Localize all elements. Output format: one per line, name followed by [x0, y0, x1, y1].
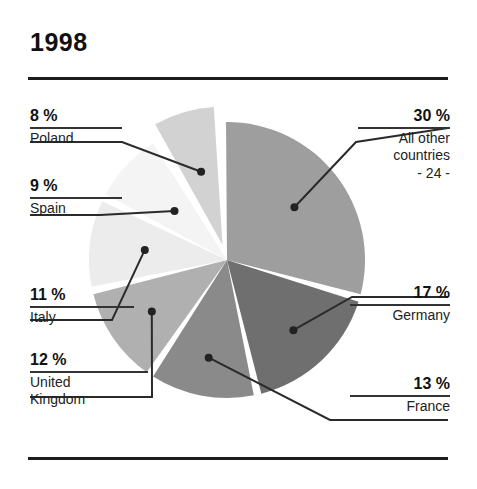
- pie-chart: [0, 0, 477, 489]
- callout-united-kingdom-label: UnitedKingdom: [30, 373, 148, 408]
- callout-spain-label: Spain: [30, 199, 122, 217]
- callout-italy: 11 % Italy: [30, 285, 134, 326]
- leader-dot-all-other-countries: [290, 203, 298, 211]
- leader-dot-italy: [141, 246, 149, 254]
- callout-germany-label: Germany: [350, 306, 450, 324]
- leader-dot-poland: [197, 168, 205, 176]
- leader-dot-united-kingdom: [148, 308, 156, 316]
- callout-spain-percent: 9 %: [30, 176, 122, 195]
- leader-dot-france: [205, 354, 213, 362]
- callout-all-other-countries-percent: 30 %: [358, 106, 450, 125]
- callout-italy-percent: 11 %: [30, 285, 134, 304]
- callout-spain: 9 % Spain: [30, 176, 122, 217]
- callout-italy-label: Italy: [30, 308, 134, 326]
- callout-poland-percent: 8 %: [30, 106, 122, 125]
- callout-germany-percent: 17 %: [350, 283, 450, 302]
- callout-all-other-countries: 30 % All othercountries - 24 -: [358, 106, 450, 182]
- leader-dot-germany: [289, 326, 297, 334]
- callout-united-kingdom-percent: 12 %: [30, 350, 148, 369]
- callout-poland-label: Poland: [30, 129, 122, 147]
- callout-united-kingdom: 12 % UnitedKingdom: [30, 350, 148, 408]
- callout-all-other-countries-sublabel: - 24 -: [358, 164, 450, 182]
- callout-poland: 8 % Poland: [30, 106, 122, 147]
- leader-dot-spain: [171, 207, 179, 215]
- chart-canvas: 1998 8 % Poland 9 % Spain 11 % Italy 12 …: [0, 0, 477, 489]
- callout-france: 13 % France: [350, 374, 450, 415]
- callout-all-other-countries-label: All othercountries: [358, 129, 450, 164]
- callout-france-label: France: [350, 397, 450, 415]
- callout-france-percent: 13 %: [350, 374, 450, 393]
- callout-germany: 17 % Germany: [350, 283, 450, 324]
